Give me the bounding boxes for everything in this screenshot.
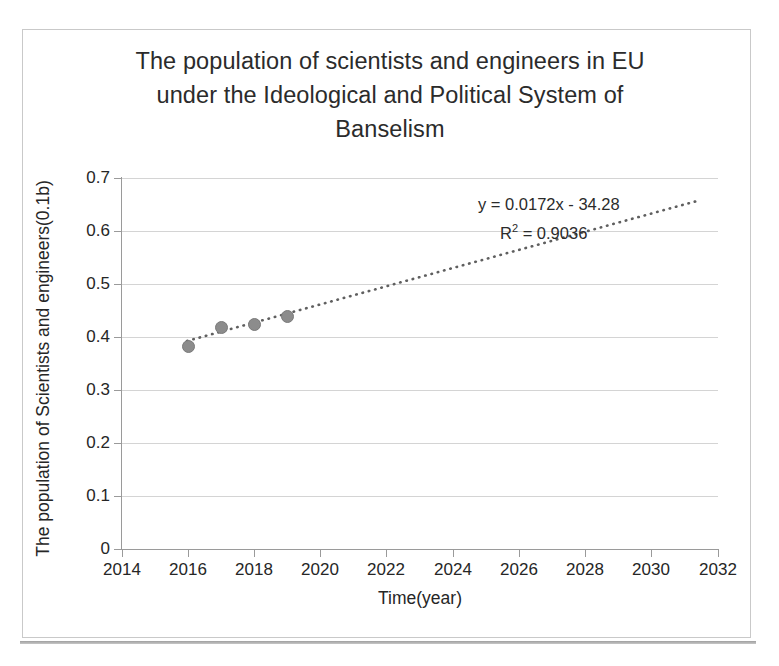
y-tick-0.7 bbox=[114, 178, 121, 179]
y-tick-0.4 bbox=[114, 337, 121, 338]
x-tick-label-2028: 2028 bbox=[550, 560, 620, 580]
y-tick-label-0.4: 0.4 bbox=[64, 327, 110, 347]
x-axis-title: Time(year) bbox=[122, 588, 718, 609]
x-tick-label-2032: 2032 bbox=[683, 560, 753, 580]
data-point-2019 bbox=[281, 310, 294, 323]
data-point-2018 bbox=[248, 318, 261, 331]
data-point-2017 bbox=[215, 321, 228, 334]
y-tick-0.3 bbox=[114, 390, 121, 391]
x-tick-2022 bbox=[386, 550, 387, 557]
x-tick-label-2030: 2030 bbox=[616, 560, 686, 580]
scan-artifact-line bbox=[20, 641, 756, 644]
chart-title-line-2: under the Ideological and Political Syst… bbox=[60, 78, 720, 112]
y-tick-label-0.6: 0.6 bbox=[64, 221, 110, 241]
x-axis-line bbox=[121, 549, 719, 550]
x-tick-2024 bbox=[453, 550, 454, 557]
x-tick-2032 bbox=[718, 550, 719, 557]
chart-title: The population of scientists and enginee… bbox=[60, 44, 720, 146]
y-tick-0 bbox=[114, 549, 121, 550]
y-tick-label-0.5: 0.5 bbox=[64, 274, 110, 294]
x-tick-label-2022: 2022 bbox=[351, 560, 421, 580]
x-tick-2018 bbox=[254, 550, 255, 557]
y-tick-label-0.7: 0.7 bbox=[64, 168, 110, 188]
x-tick-2028 bbox=[585, 550, 586, 557]
r-squared-value: = 0.9036 bbox=[518, 224, 587, 242]
x-tick-label-2018: 2018 bbox=[219, 560, 289, 580]
r-squared-label: R bbox=[500, 224, 512, 242]
y-tick-label-0: 0 bbox=[64, 539, 110, 559]
y-tick-label-0.3: 0.3 bbox=[64, 380, 110, 400]
data-point-2016 bbox=[182, 340, 195, 353]
x-tick-2016 bbox=[188, 550, 189, 557]
trendline-equation: y = 0.0172x - 34.28 bbox=[478, 192, 688, 216]
y-tick-0.6 bbox=[114, 231, 121, 232]
trendline-r-squared: R2 = 0.9036 bbox=[478, 216, 688, 245]
y-tick-label-0.2: 0.2 bbox=[64, 433, 110, 453]
x-tick-label-2020: 2020 bbox=[285, 560, 355, 580]
scanned-page: The population of scientists and enginee… bbox=[0, 0, 779, 666]
y-tick-0.2 bbox=[114, 443, 121, 444]
x-tick-label-2024: 2024 bbox=[418, 560, 488, 580]
y-tick-label-0.1: 0.1 bbox=[64, 486, 110, 506]
y-axis-title: The population of Scientists and enginee… bbox=[33, 159, 54, 579]
y-axis-line bbox=[121, 177, 122, 550]
x-tick-2026 bbox=[519, 550, 520, 557]
trendline-equation-block: y = 0.0172x - 34.28 R2 = 0.9036 bbox=[478, 192, 688, 245]
x-tick-2030 bbox=[651, 550, 652, 557]
x-tick-label-2016: 2016 bbox=[153, 560, 223, 580]
chart-title-line-1: The population of scientists and enginee… bbox=[60, 44, 720, 78]
x-tick-2020 bbox=[320, 550, 321, 557]
y-tick-0.1 bbox=[114, 496, 121, 497]
x-tick-label-2014: 2014 bbox=[87, 560, 157, 580]
chart-title-line-3: Banselism bbox=[60, 112, 720, 146]
x-tick-label-2026: 2026 bbox=[484, 560, 554, 580]
x-tick-2014 bbox=[122, 550, 123, 557]
y-tick-0.5 bbox=[114, 284, 121, 285]
